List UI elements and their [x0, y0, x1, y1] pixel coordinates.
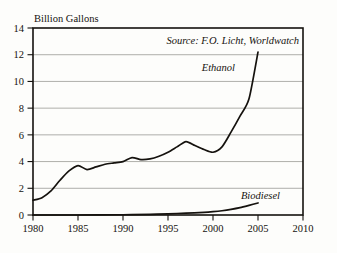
series-label-ethanol: Ethanol [201, 62, 235, 73]
x-tick-label-1985: 1985 [68, 223, 89, 234]
y-tick-label-2: 2 [19, 183, 24, 194]
y-tick-label-8: 8 [19, 103, 24, 114]
x-tick-label-1980: 1980 [23, 223, 44, 234]
plot-area-background [33, 28, 303, 215]
y-axis-title: Billion Gallons [34, 13, 98, 24]
y-tick-label-6: 6 [19, 130, 24, 141]
x-tick-label-1995: 1995 [158, 223, 179, 234]
x-tick-label-1990: 1990 [113, 223, 134, 234]
chart-container: Billion Gallons 0 2 [0, 0, 337, 253]
x-tick-label-2005: 2005 [248, 223, 269, 234]
source-annotation: Source: F.O. Licht, Worldwatch [166, 35, 299, 46]
y-tick-label-4: 4 [19, 156, 25, 167]
y-tick-label-10: 10 [14, 76, 25, 87]
y-tick-label-12: 12 [14, 49, 25, 60]
y-tick-label-14: 14 [14, 23, 25, 34]
series-label-biodiesel: Biodiesel [241, 190, 280, 201]
y-tick-label-0: 0 [19, 210, 24, 221]
x-tick-label-2000: 2000 [203, 223, 224, 234]
line-chart: Billion Gallons 0 2 [0, 0, 337, 253]
x-tick-label-2010: 2010 [293, 223, 314, 234]
